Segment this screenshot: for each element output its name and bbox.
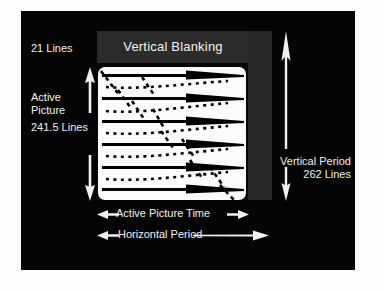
vertical-period-label-line1: Vertical Period (259, 155, 351, 168)
active-picture-label-group: Active Picture 241.5 Lines (31, 91, 88, 134)
active-picture-area (98, 67, 246, 200)
vertical-period-label-group: Vertical Period 262 Lines (259, 155, 351, 181)
vertical-period-lines-label: 262 Lines (259, 168, 351, 181)
vertical-blanking-lines-label: 21 Lines (31, 42, 73, 55)
figure-root: Vertical Blanking (0, 0, 383, 292)
active-picture-label-line2: Picture (31, 104, 88, 117)
active-picture-lines-label: 241.5 Lines (31, 121, 88, 134)
active-picture-label-line1: Active (31, 91, 88, 104)
diagram-panel: Vertical Blanking (21, 11, 355, 270)
raster-scan-graphic (98, 67, 246, 200)
vertical-blanking-label: Vertical Blanking (97, 35, 249, 59)
vertical-period-arrow (277, 31, 295, 201)
horizontal-period-arrow (97, 229, 269, 242)
active-picture-arrow (81, 67, 99, 201)
active-picture-time-arrow (97, 208, 249, 221)
